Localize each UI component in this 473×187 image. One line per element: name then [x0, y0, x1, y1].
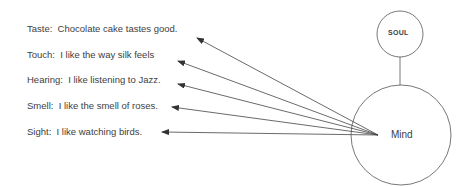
mind-label: Mind: [391, 129, 413, 140]
arrow-touch: [178, 61, 378, 135]
arrow-taste: [197, 38, 378, 135]
arrow-sight: [162, 132, 378, 135]
soul-label: SOUL: [388, 29, 409, 36]
arrow-hearing: [178, 84, 378, 135]
arrow-smell: [172, 107, 378, 135]
